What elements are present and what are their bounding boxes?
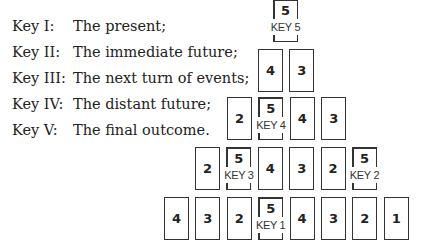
card-number: 1 (385, 211, 408, 226)
legend-key-description: The immediate future; (73, 42, 238, 62)
card-frame-line (376, 183, 378, 190)
card: 4 (258, 147, 283, 190)
card-number: 3 (322, 111, 345, 126)
card-number: 5 (274, 3, 297, 18)
card-frame-line (250, 183, 252, 190)
legend-key-label: Key IV: (12, 94, 63, 114)
card-number: 4 (259, 63, 282, 78)
card-frame-line (258, 197, 283, 199)
card-frame-line (258, 133, 260, 140)
legend-key-description: The next turn of events; (73, 68, 249, 88)
card-number: 5 (353, 151, 376, 166)
card-frame-line (258, 97, 260, 117)
card-number: 4 (165, 211, 188, 226)
card-number: 3 (196, 211, 219, 226)
card-frame-line (258, 239, 283, 241)
card-frame-line (297, 35, 299, 42)
legend-key-description: The present; (73, 16, 166, 36)
card-number: 4 (291, 211, 314, 226)
key-label: KEY 4 (255, 119, 286, 131)
card: 2 (227, 197, 252, 240)
card-frame-line (352, 147, 377, 149)
card: 3 (321, 97, 346, 140)
key-card-position: 5KEY 4 (258, 97, 283, 140)
card-frame-line (258, 139, 283, 141)
card-frame-line (226, 147, 228, 167)
card-number: 2 (353, 211, 376, 226)
card-number: 2 (196, 161, 219, 176)
legend-key-description: The final outcome. (73, 120, 210, 140)
legend-key-label: Key III: (12, 68, 66, 88)
card: 3 (289, 147, 314, 190)
card: 4 (290, 97, 315, 140)
card-number: 5 (227, 151, 250, 166)
card-frame-line (273, 0, 298, 1)
card-number: 3 (322, 211, 345, 226)
card: 2 (227, 97, 252, 140)
key-label: KEY 3 (223, 169, 254, 181)
card-frame-line (258, 97, 283, 99)
card: 4 (290, 197, 315, 240)
card-frame-line (273, 35, 275, 42)
legend-key-description: The distant future; (73, 94, 211, 114)
key-card-position: 5KEY 2 (352, 147, 377, 190)
card-frame-line (226, 147, 251, 149)
card-frame-line (376, 147, 378, 167)
card-number: 3 (290, 161, 313, 176)
key-card-position: 5KEY 1 (258, 197, 283, 240)
legend-key-label: Key I: (12, 16, 54, 36)
key-card-position: 5KEY 5 (273, 0, 298, 42)
card-frame-line (352, 189, 377, 191)
card-frame-line (282, 197, 284, 217)
card-frame-line (273, 41, 298, 43)
card-frame-line (352, 147, 354, 167)
card-number: 2 (228, 211, 251, 226)
card-number: 4 (259, 161, 282, 176)
key-label: KEY 1 (255, 219, 286, 231)
card: 4 (258, 49, 283, 92)
card-number: 2 (322, 161, 345, 176)
card-frame-line (282, 97, 284, 117)
card-frame-line (297, 0, 299, 19)
card: 1 (384, 197, 409, 240)
card: 2 (352, 197, 377, 240)
card-frame-line (258, 197, 260, 217)
card: 2 (321, 147, 346, 190)
card: 3 (289, 49, 314, 92)
card-frame-line (352, 183, 354, 190)
card-frame-line (282, 133, 284, 140)
card: 2 (195, 147, 220, 190)
key-label: KEY 2 (349, 169, 380, 181)
card-number: 5 (259, 201, 282, 216)
card-frame-line (226, 183, 228, 190)
card-number: 5 (259, 101, 282, 116)
key-card-position: 5KEY 3 (226, 147, 251, 190)
card-frame-line (226, 189, 251, 191)
card: 4 (164, 197, 189, 240)
key-label: KEY 5 (270, 21, 301, 33)
card: 3 (195, 197, 220, 240)
card: 3 (321, 197, 346, 240)
card-frame-line (250, 147, 252, 167)
card-frame-line (258, 233, 260, 240)
card-number: 3 (290, 63, 313, 78)
card-number: 4 (291, 111, 314, 126)
card-frame-line (282, 233, 284, 240)
legend-key-label: Key II: (12, 42, 60, 62)
card-number: 2 (228, 111, 251, 126)
card-frame-line (273, 0, 275, 19)
legend-key-label: Key V: (12, 120, 58, 140)
